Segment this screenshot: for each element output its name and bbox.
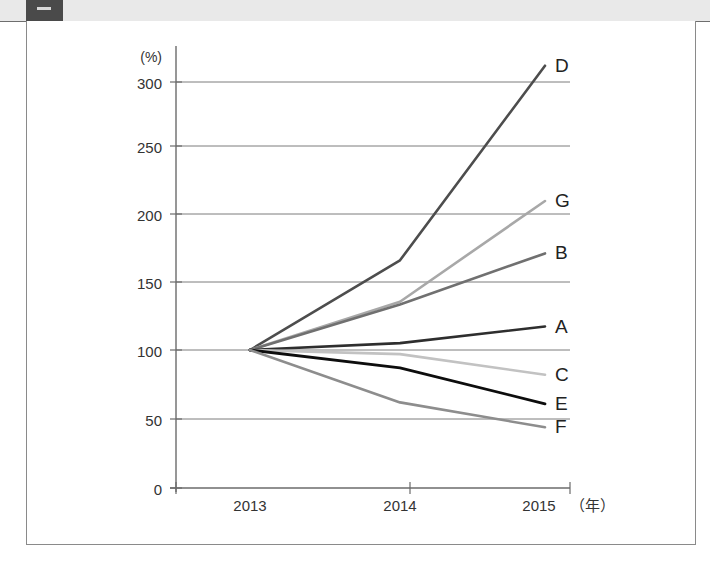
series-label-C: C — [555, 364, 569, 385]
series-line-G — [250, 201, 545, 350]
series-label-G: G — [555, 190, 570, 211]
series-label-F: F — [555, 416, 567, 437]
gridlines — [176, 82, 570, 419]
xtick-label-2014: 2014 — [383, 497, 416, 514]
series-line-F — [250, 350, 545, 427]
xtick-label-2015: 2015 — [522, 497, 555, 514]
xtick-label-2013: 2013 — [233, 497, 266, 514]
series-label-D: D — [555, 55, 569, 76]
line-chart: (%) 300 250 200 150 100 50 0 2013 2014 2… — [0, 0, 710, 567]
series-label-layer: DGBACEF — [555, 55, 570, 438]
series-label-B: B — [555, 242, 568, 263]
series-line-A — [250, 327, 545, 351]
chart-svg: (%) 300 250 200 150 100 50 0 2013 2014 2… — [0, 0, 710, 567]
ytick-label-300: 300 — [137, 75, 162, 92]
ytick-label-200: 200 — [137, 207, 162, 224]
y-axis-unit-label: (%) — [140, 49, 162, 65]
series-line-C — [250, 350, 545, 375]
series-label-E: E — [555, 393, 568, 414]
series-layer — [250, 66, 545, 428]
series-label-A: A — [555, 316, 568, 337]
ytick-label-0: 0 — [154, 481, 162, 498]
ytick-label-50: 50 — [145, 412, 162, 429]
series-line-D — [250, 66, 545, 350]
x-axis-unit-label: （年） — [570, 497, 615, 514]
ytick-label-150: 150 — [137, 275, 162, 292]
series-line-E — [250, 350, 545, 404]
ytick-label-100: 100 — [137, 343, 162, 360]
ytick-label-250: 250 — [137, 139, 162, 156]
